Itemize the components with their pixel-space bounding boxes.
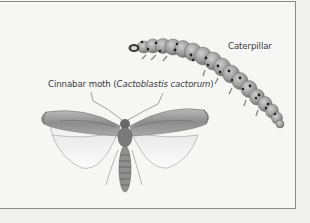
caterpillar-label: Caterpillar xyxy=(228,41,272,51)
moth-right-wings xyxy=(130,109,209,168)
illustration-canvas xyxy=(0,0,310,223)
moth-label: Cinnabar moth (Cactoblastis cactorum) xyxy=(48,79,214,89)
moth-left-wings xyxy=(41,111,120,169)
caterpillar-head xyxy=(129,44,140,52)
moth-scientific-name: Cactoblastis cactorum xyxy=(117,79,211,89)
moth-common-name: Cinnabar moth ( xyxy=(48,79,117,89)
moth-body xyxy=(118,119,132,192)
moth-illustration xyxy=(41,92,208,192)
moth-label-close: ) xyxy=(210,79,213,89)
